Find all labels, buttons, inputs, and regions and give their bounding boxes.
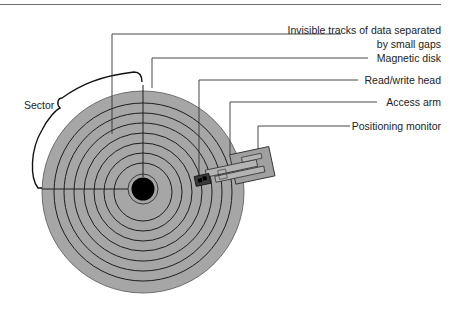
label-tracks-line1: Invisible tracks of data separated bbox=[287, 24, 441, 36]
label-tracks-line2: by small gaps bbox=[377, 38, 441, 50]
disk-drive-diagram: Invisible tracks of data separated by sm… bbox=[0, 0, 459, 313]
label-access-arm: Access arm bbox=[386, 96, 441, 108]
spindle-hub bbox=[132, 178, 155, 201]
label-sector: Sector bbox=[24, 99, 54, 111]
label-read-write-head: Read/write head bbox=[365, 74, 441, 86]
label-positioning-monitor: Positioning monitor bbox=[352, 120, 441, 132]
label-magnetic-disk: Magnetic disk bbox=[377, 52, 441, 64]
leader-magnetic-disk bbox=[152, 58, 368, 88]
leader-positioning-monitor bbox=[258, 126, 350, 155]
